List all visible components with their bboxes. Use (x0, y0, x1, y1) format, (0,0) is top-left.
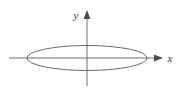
figure-canvas: y x (0, 0, 181, 93)
x-axis-label: x (167, 52, 173, 64)
ellipse-diagram: y x (0, 0, 181, 93)
y-axis-arrow-icon (84, 10, 91, 19)
y-axis-label: y (73, 9, 79, 21)
x-axis-arrow-icon (154, 55, 163, 62)
